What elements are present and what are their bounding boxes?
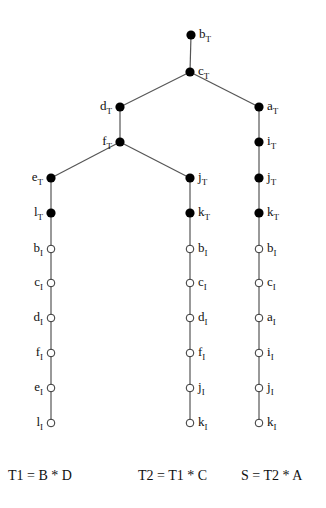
node-label: dT [100, 98, 113, 116]
node-label: jI [197, 379, 205, 397]
filled-node-icon [254, 173, 263, 182]
node-label: cT [198, 63, 210, 81]
node-label: bI [267, 240, 277, 258]
open-node-icon [47, 349, 55, 357]
formula-caption: T1 = B * D [8, 468, 72, 483]
node-label: jI [266, 379, 274, 397]
node-label: lI [36, 414, 43, 432]
filled-node-icon [186, 30, 195, 39]
node-label: bI [34, 240, 44, 258]
filled-node-icon [254, 137, 263, 146]
open-node-icon [47, 419, 55, 427]
node-label: cI [34, 274, 43, 292]
node-label: kI [198, 414, 208, 432]
open-node-icon [186, 419, 194, 427]
tree-edge [120, 72, 190, 107]
formula-caption: S = T2 * A [241, 468, 303, 483]
open-node-icon [186, 384, 194, 392]
open-node-icon [186, 349, 194, 357]
open-node-icon [47, 314, 55, 322]
open-node-icon [47, 279, 55, 287]
node-label: dI [198, 309, 208, 327]
filled-node-icon [254, 102, 263, 111]
filled-node-icon [185, 208, 194, 217]
open-node-icon [255, 245, 263, 253]
tree-edge [190, 35, 191, 72]
tree-edges [51, 35, 259, 423]
open-node-icon [255, 384, 263, 392]
node-label: jT [197, 169, 208, 187]
node-label: aT [267, 98, 279, 116]
node-label: kT [267, 204, 280, 222]
node-label: eT [32, 169, 44, 187]
node-label: bT [199, 26, 212, 44]
node-label: cI [267, 274, 276, 292]
node-label: fI [198, 344, 205, 362]
filled-node-icon [46, 173, 55, 182]
node-label: fI [36, 344, 43, 362]
diagram-canvas: bTcTdTfTeTlTbIcIdIfIeIlIjTkTbIcIdIfIjIkI… [0, 0, 326, 508]
filled-node-icon [254, 208, 263, 217]
node-label: jT [266, 169, 277, 187]
node-label: lT [34, 204, 44, 222]
node-label: kI [267, 414, 277, 432]
formula-caption: T2 = T1 * C [138, 468, 207, 483]
open-node-icon [47, 384, 55, 392]
node-label: eI [34, 379, 43, 397]
open-node-icon [186, 314, 194, 322]
open-node-icon [186, 279, 194, 287]
open-node-icon [255, 314, 263, 322]
node-label: aI [267, 309, 276, 327]
node-label: dI [34, 309, 44, 327]
node-label: iT [267, 133, 277, 151]
tree-edge [120, 142, 190, 178]
formula-captions: T1 = B * DT2 = T1 * CS = T2 * A [8, 468, 303, 483]
node-label: fT [102, 133, 112, 151]
filled-node-icon [185, 173, 194, 182]
elimination-tree: bTcTdTfTeTlTbIcIdIfIeIlIjTkTbIcIdIfIjIkI… [0, 0, 326, 508]
node-label: kT [198, 204, 211, 222]
open-node-icon [186, 245, 194, 253]
filled-node-icon [115, 137, 124, 146]
open-node-icon [255, 279, 263, 287]
node-label: iI [267, 344, 274, 362]
open-node-icon [255, 349, 263, 357]
filled-node-icon [185, 67, 194, 76]
open-node-icon [255, 419, 263, 427]
node-labels: bTcTdTfTeTlTbIcIdIfIeIlIjTkTbIcIdIfIjIkI… [32, 26, 280, 432]
filled-node-icon [115, 102, 124, 111]
open-node-icon [47, 245, 55, 253]
node-label: bI [198, 240, 208, 258]
filled-node-icon [46, 208, 55, 217]
node-label: cI [198, 274, 207, 292]
